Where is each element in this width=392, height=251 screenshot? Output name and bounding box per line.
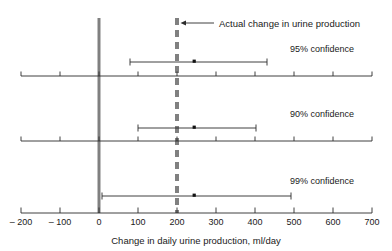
xtick-label-7: 500 — [286, 217, 301, 227]
axis-ticks-top — [21, 72, 372, 77]
axis-line-middle — [21, 137, 372, 142]
xtick-label-3: 100 — [130, 217, 145, 227]
axis-tick-labels: – 200 – 100 0 100 200 300 400 500 600 70… — [10, 217, 380, 227]
xtick-label-9: 700 — [364, 217, 379, 227]
xtick-label-8: 600 — [325, 217, 340, 227]
ci-row-90: 90% confidence — [138, 109, 354, 132]
xtick-label-6: 400 — [247, 217, 262, 227]
chart-svg: Actual change in urine production 95% co… — [0, 0, 392, 251]
xtick-label-1: – 100 — [49, 217, 72, 227]
annotation-arrow-head-icon — [181, 21, 187, 26]
axis-ticks-middle — [21, 137, 372, 142]
xtick-label-5: 300 — [208, 217, 223, 227]
reference-lines-group — [99, 18, 177, 213]
confidence-interval-chart: Actual change in urine production 95% co… — [0, 0, 392, 251]
axis-line-bottom: – 200 – 100 0 100 200 300 400 500 600 70… — [10, 208, 380, 228]
annotation-group: Actual change in urine production — [181, 18, 361, 29]
xtick-label-0: – 200 — [10, 217, 33, 227]
x-axis-title: Change in daily urine production, ml/day — [111, 235, 281, 246]
annotation-label: Actual change in urine production — [219, 18, 360, 29]
ci-point-estimate-90 — [193, 126, 196, 129]
ci-label-95: 95% confidence — [290, 44, 354, 54]
ci-label-90: 90% confidence — [290, 109, 354, 119]
xtick-label-2: 0 — [96, 217, 101, 227]
ci-row-99: 99% confidence — [102, 176, 354, 200]
axis-line-top — [21, 72, 372, 77]
ci-point-estimate-99 — [193, 194, 196, 197]
ci-label-99: 99% confidence — [290, 176, 354, 186]
ci-row-95: 95% confidence — [130, 44, 354, 66]
axis-ticks-bottom — [21, 208, 372, 214]
xtick-label-4: 200 — [169, 217, 184, 227]
ci-point-estimate-95 — [193, 60, 196, 63]
